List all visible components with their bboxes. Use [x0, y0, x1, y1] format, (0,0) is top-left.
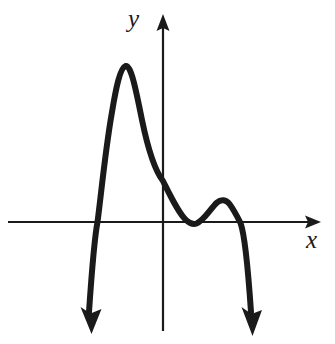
polynomial-curve	[89, 66, 251, 312]
polynomial-graph-figure: y x	[0, 0, 335, 344]
x-axis-label: x	[306, 227, 317, 252]
graph-canvas	[0, 0, 335, 344]
y-axis-label: y	[128, 6, 139, 31]
